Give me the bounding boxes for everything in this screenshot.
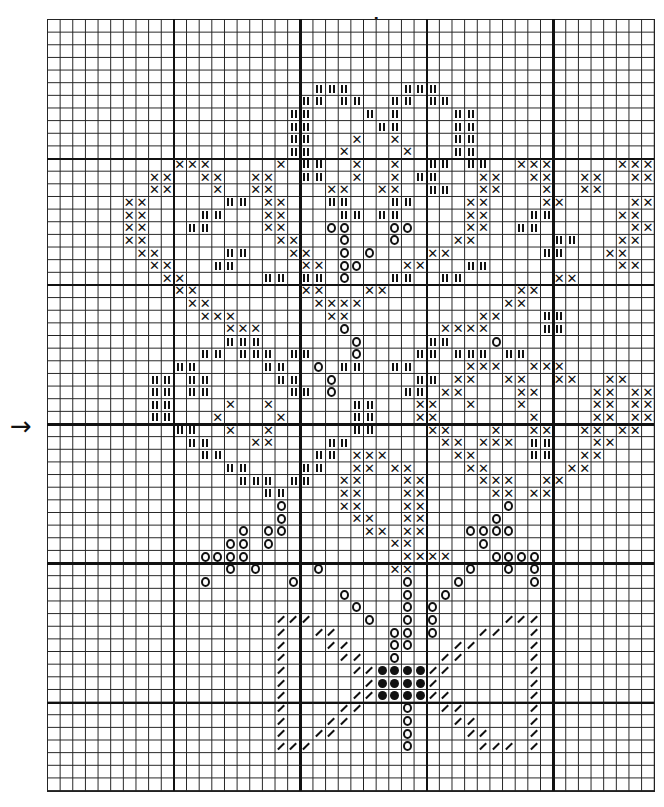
circle-symbol	[275, 525, 288, 538]
cross-stitch-symbol: ✕	[464, 234, 477, 247]
cross-stitch-symbol: ✕	[566, 373, 579, 386]
cross-stitch-symbol: ✕	[540, 158, 553, 171]
filled-dot-symbol	[401, 664, 414, 677]
double-bar-symbol	[211, 348, 224, 361]
circle-symbol	[502, 550, 515, 563]
cross-stitch-symbol: ✕	[515, 399, 528, 412]
double-bar-symbol	[262, 487, 275, 500]
double-bar-symbol	[414, 373, 427, 386]
cross-stitch-symbol: ✕	[199, 158, 212, 171]
cross-stitch-symbol: ✕	[439, 550, 452, 563]
cross-stitch-symbol: ✕	[262, 196, 275, 209]
cross-stitch-symbol: ✕	[477, 474, 490, 487]
cross-stitch-symbol: ✕	[629, 424, 642, 437]
cross-stitch-symbol: ✕	[275, 411, 288, 424]
slash-symbol	[528, 740, 541, 753]
double-bar-symbol	[262, 348, 275, 361]
circle-symbol	[211, 550, 224, 563]
circle-symbol	[427, 614, 440, 627]
double-bar-symbol	[300, 386, 313, 399]
double-bar-symbol	[363, 108, 376, 121]
circle-symbol	[389, 639, 402, 652]
cross-stitch-symbol: ✕	[629, 158, 642, 171]
cross-stitch-symbol: ✕	[502, 373, 515, 386]
double-bar-symbol	[502, 348, 515, 361]
double-bar-symbol	[300, 133, 313, 146]
circle-symbol	[313, 563, 326, 576]
cross-stitch-symbol: ✕	[578, 449, 591, 462]
double-bar-symbol	[528, 449, 541, 462]
cross-stitch-symbol: ✕	[528, 361, 541, 374]
circle-symbol	[464, 563, 477, 576]
slash-symbol	[477, 740, 490, 753]
double-bar-symbol	[351, 209, 364, 222]
slash-symbol	[477, 626, 490, 639]
cross-stitch-symbol: ✕	[477, 221, 490, 234]
filled-dot-symbol	[389, 689, 402, 702]
double-bar-symbol	[427, 158, 440, 171]
cross-stitch-symbol: ✕	[351, 171, 364, 184]
double-bar-symbol	[262, 361, 275, 374]
circle-symbol	[351, 259, 364, 272]
double-bar-symbol	[464, 133, 477, 146]
double-bar-symbol	[211, 449, 224, 462]
cross-stitch-symbol: ✕	[136, 247, 149, 260]
double-bar-symbol	[401, 361, 414, 374]
slash-symbol	[515, 614, 528, 627]
cross-stitch-symbol: ✕	[414, 550, 427, 563]
double-bar-symbol	[186, 373, 199, 386]
cross-stitch-symbol: ✕	[591, 183, 604, 196]
double-bar-symbol	[186, 424, 199, 437]
circle-symbol	[401, 727, 414, 740]
double-bar-symbol	[237, 247, 250, 260]
double-bar-symbol	[376, 120, 389, 133]
double-bar-symbol	[249, 348, 262, 361]
double-bar-symbol	[249, 474, 262, 487]
double-bar-symbol	[439, 158, 452, 171]
circle-symbol	[262, 525, 275, 538]
cross-stitch-symbol: ✕	[439, 386, 452, 399]
cross-stitch-symbol: ✕	[490, 310, 503, 323]
cross-stitch-symbol: ✕	[275, 158, 288, 171]
slash-symbol	[363, 664, 376, 677]
circle-symbol	[401, 221, 414, 234]
cross-stitch-symbol: ✕	[174, 158, 187, 171]
circle-symbol	[490, 335, 503, 348]
cross-stitch-symbol: ✕	[427, 550, 440, 563]
double-bar-symbol	[161, 399, 174, 412]
slash-symbol	[275, 614, 288, 627]
cross-stitch-symbol: ✕	[262, 221, 275, 234]
slash-symbol	[528, 677, 541, 690]
circle-symbol	[363, 614, 376, 627]
cross-stitch-symbol: ✕	[427, 424, 440, 437]
cross-stitch-symbol: ✕	[401, 146, 414, 159]
cross-stitch-symbol: ✕	[515, 297, 528, 310]
cross-stitch-symbol: ✕	[629, 234, 642, 247]
circle-symbol	[401, 702, 414, 715]
double-bar-symbol	[363, 411, 376, 424]
slash-symbol	[325, 727, 338, 740]
double-bar-symbol	[186, 361, 199, 374]
slash-symbol	[490, 626, 503, 639]
slash-symbol	[439, 702, 452, 715]
cross-stitch-symbol: ✕	[528, 285, 541, 298]
cross-stitch-symbol: ✕	[540, 361, 553, 374]
double-bar-symbol	[275, 361, 288, 374]
cross-stitch-symbol: ✕	[616, 234, 629, 247]
cross-stitch-symbol: ✕	[452, 386, 465, 399]
cross-stitch-symbol: ✕	[629, 259, 642, 272]
double-bar-symbol	[300, 474, 313, 487]
cross-stitch-symbol: ✕	[439, 323, 452, 336]
circle-symbol	[262, 538, 275, 551]
cross-stitch-symbol: ✕	[642, 196, 655, 209]
cross-stitch-symbol: ✕	[249, 183, 262, 196]
cross-stitch-symbol: ✕	[591, 449, 604, 462]
filled-dot-symbol	[401, 689, 414, 702]
double-bar-symbol	[477, 259, 490, 272]
double-bar-symbol	[515, 348, 528, 361]
double-bar-symbol	[439, 183, 452, 196]
slash-symbol	[452, 702, 465, 715]
cross-stitch-symbol: ✕	[490, 487, 503, 500]
cross-stitch-symbol: ✕	[401, 259, 414, 272]
cross-stitch-symbol: ✕	[464, 399, 477, 412]
